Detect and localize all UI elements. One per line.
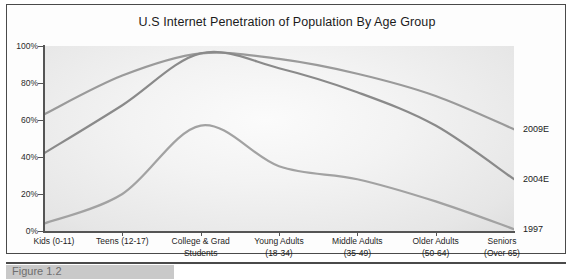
series-line-2009e [44,53,514,130]
series-line-2004e [44,52,514,179]
x-axis-category-label-line: Seniors [454,236,550,248]
figure-container: U.S Internet Penetration of Population B… [0,0,574,279]
chart-title: U.S Internet Penetration of Population B… [0,15,574,29]
y-axis-tick-label: 40% [2,152,38,162]
y-axis-tick-label: 0% [2,226,38,236]
series-lines-svg [44,46,514,231]
plot-area [44,46,514,231]
caption-text: Figure 1.2 [12,265,62,277]
y-axis-tick-mark [38,194,43,195]
y-axis-tick-mark [38,83,43,84]
y-axis-tick-label: 100% [2,41,38,51]
series-label-2009e: 2009E [523,124,549,134]
y-axis-tick-mark [38,46,43,47]
x-axis-category-label-line: (Over 65) [454,248,550,260]
y-axis-tick-mark [38,120,43,121]
y-axis-line [43,45,45,232]
y-axis-tick-label: 60% [2,115,38,125]
series-line-1997 [44,125,514,229]
series-label-1997: 1997 [523,224,543,234]
y-axis-tick-label: 80% [2,78,38,88]
caption-divider [6,262,566,264]
caption-strip: Figure 1.2 [6,265,174,279]
y-axis-tick-label: 20% [2,189,38,199]
series-label-2004e: 2004E [523,174,549,184]
y-axis-tick-mark [38,157,43,158]
x-axis-category-label: Seniors(Over 65) [454,236,550,259]
y-axis-tick-mark [38,231,43,232]
